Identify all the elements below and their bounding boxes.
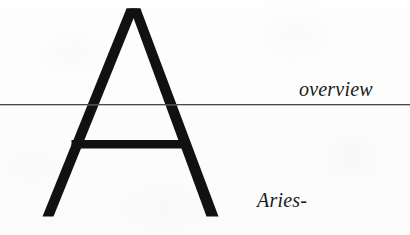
letter-a-left-stroke [43, 9, 138, 217]
letter-a-crossbar [72, 140, 191, 149]
letter-a-display-glyph [0, 0, 410, 235]
letter-a-right-stroke [130, 9, 219, 217]
horizontal-rule [0, 104, 410, 105]
letter-a-apex-cap [127, 9, 141, 14]
running-head-overview: overview [299, 78, 373, 101]
entry-word-aries: Aries- [257, 189, 307, 212]
scanned-page: overview Aries- [0, 0, 410, 235]
